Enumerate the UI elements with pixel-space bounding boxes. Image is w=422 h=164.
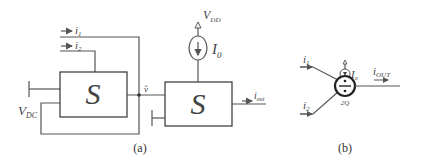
b-i1-label: i1 [303, 53, 310, 67]
divider-dot-top-icon [344, 80, 347, 83]
vdd-triangle-icon [195, 22, 201, 28]
i2-wire [60, 51, 95, 72]
node-dot-icon [137, 93, 141, 97]
vdc-label: VDC [18, 103, 38, 120]
i0-label: I0 [211, 41, 222, 60]
panel-a: i1 i2 VDC S v̂ S VDD I0 iout (a) [18, 8, 266, 155]
b-i2-label: i2 [303, 99, 310, 113]
caption-a: (a) [133, 141, 146, 155]
i1-label: i1 [75, 24, 82, 38]
vdd-label: VDD [203, 8, 220, 24]
right-s-label: S [191, 87, 206, 120]
i2-label: i2 [75, 39, 82, 53]
caption-b: (b) [338, 141, 352, 155]
b-iout-label: iOUT [373, 65, 391, 79]
b-i1-wire [300, 67, 338, 80]
divider-dot-bottom-icon [344, 90, 347, 93]
node-voltage-label: v̂ [144, 84, 148, 94]
circuit-diagram: i1 i2 VDC S v̂ S VDD I0 iout (a) [0, 0, 422, 164]
divider-2q-label: 2Q [341, 99, 350, 107]
b-supply-triangle-icon [343, 60, 347, 64]
left-s-label: S [86, 77, 101, 110]
panel-b: i1 i2 Io 2Q iOUT (b) [300, 53, 400, 155]
iout-label: iout [254, 90, 265, 102]
